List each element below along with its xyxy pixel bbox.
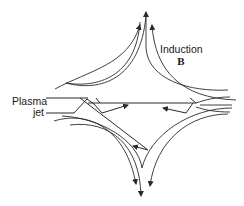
plasma-jet-label-line2: jet — [12, 107, 44, 118]
field-line-bottom-center-right — [142, 108, 232, 168]
trajectory-arrow-left — [163, 108, 186, 113]
field-line-bottom-outer-right — [150, 114, 228, 186]
induction-symbol-b: B — [160, 56, 202, 67]
field-line-top-outer-left — [55, 25, 140, 89]
field-line-bottom-outer-left — [54, 118, 136, 184]
field-lines-bottom — [54, 108, 232, 196]
particle-trajectories — [74, 98, 196, 150]
induction-label: Induction B — [160, 44, 202, 67]
field-line-bottom-inner-left — [70, 124, 141, 196]
field-lines-top — [55, 12, 236, 100]
field-line-top-left-arc — [66, 22, 140, 84]
trajectory-arrow-right — [102, 105, 128, 113]
field-line-bottom-center-left — [62, 116, 142, 168]
plasma-jet-label: Plasma jet — [12, 96, 44, 118]
induction-label-text: Induction — [160, 44, 202, 55]
